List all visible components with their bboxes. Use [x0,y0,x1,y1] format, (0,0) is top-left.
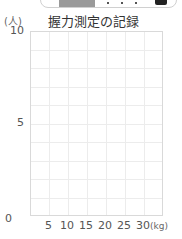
grid-line [31,87,162,88]
chart-title: 握力測定の記録 [48,11,139,30]
toolbar-dot [135,2,137,4]
toolbar-dot [121,2,123,4]
grid-line [31,142,162,143]
y-tick-5: 5 [0,116,24,129]
grid-line [31,198,162,199]
y-tick-10: 10 [0,24,24,37]
toolbar-tab[interactable] [59,0,95,7]
grid-line [31,161,162,162]
chart-plot-area [30,31,163,216]
x-axis-unit: (kg) [150,221,168,231]
grid-line [31,105,162,106]
top-toolbar [40,0,177,8]
grid-line [31,179,162,180]
x-tick: 10 [60,219,74,232]
x-tick: 25 [117,219,131,232]
x-tick: 15 [79,219,93,232]
x-tick: 30 [136,219,150,232]
x-tick: 20 [98,219,112,232]
grid-line [31,50,162,51]
toolbar-square-icon[interactable] [155,0,167,5]
grid-line [31,68,162,69]
toolbar-dot [107,2,109,4]
x-tick: 5 [45,219,52,232]
grid-line [31,124,162,125]
y-tick-0: 0 [0,212,12,225]
